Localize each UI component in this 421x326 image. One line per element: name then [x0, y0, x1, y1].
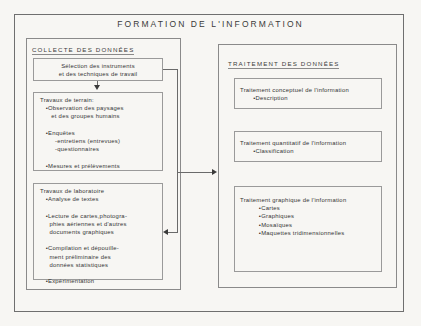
labo-l7: •Compilation et dépouille- — [40, 245, 119, 251]
labo-l0: Travaux de laboratoire — [40, 188, 104, 194]
diagram-canvas: FORMATION DE L'INFORMATION COLLECTE DES … — [0, 0, 421, 326]
terrain-l5: -entretiens (entrevues) — [40, 138, 120, 144]
diagram-title: FORMATION DE L'INFORMATION — [0, 19, 421, 29]
labo-l1: •Analyse de textes — [40, 196, 99, 202]
quantitatif-l1: •Classification — [240, 148, 294, 154]
graphique-l0: Traitement graphique de l'information — [240, 197, 346, 203]
arrow-down-icon — [94, 85, 100, 90]
connector-collecte-to-traitement-line — [178, 172, 213, 173]
box-traitement-conceptuel-text: Traitement conceptuel de l'information •… — [240, 86, 349, 102]
box-travaux-de-laboratoire-text: Travaux de laboratoire •Analyse de texte… — [40, 187, 127, 285]
quantitatif-l0: Traitement quantitatif de l'information — [240, 140, 346, 146]
labo-l11: •Expérimentation — [40, 278, 94, 284]
conceptuel-l1: •Description — [240, 95, 288, 101]
box-travaux-de-terrain-text: Travaux de terrain: •Observation des pay… — [40, 96, 124, 170]
graphique-l4: •Maquettes tridimensionnelles — [240, 230, 344, 236]
graphique-l3: •Mosaïques — [240, 222, 292, 228]
panel-collecte-heading: COLLECTE DES DONNÉES — [32, 46, 134, 55]
box-traitement-quantitatif-text: Traitement quantitatif de l'information … — [240, 139, 346, 155]
terrain-l0: Travaux de terrain: — [40, 97, 94, 103]
graphique-l2: •Graphiques — [240, 213, 294, 219]
panel-traitement-heading: TRAITEMENT DES DONNÉES — [228, 60, 339, 69]
box-selection-instruments-text-2: et des techniques de travail — [33, 70, 163, 78]
box-traitement-graphique-text: Traitement graphique de l'information •C… — [240, 196, 346, 237]
terrain-l1: •Observation des paysages — [40, 105, 124, 111]
conceptuel-l0: Traitement conceptuel de l'information — [240, 87, 349, 93]
connector-into-laboratoire — [168, 232, 178, 233]
connector-selection-vertical — [177, 69, 178, 232]
labo-l4: phies aériennes et d'autres — [40, 221, 127, 227]
labo-l5: documents graphiques — [40, 229, 114, 235]
graphique-l1: •Cartes — [240, 205, 280, 211]
connector-selection-right-stub — [163, 69, 178, 70]
terrain-l6: -questionnaires — [40, 146, 99, 152]
box-selection-instruments-text: Sélection des instruments — [33, 62, 163, 70]
labo-l9: données statistiques — [40, 262, 108, 268]
arrow-right-icon — [212, 169, 217, 175]
arrow-left-icon — [163, 229, 168, 235]
terrain-l2: et des groupes humains — [40, 113, 120, 119]
labo-l8: ment préliminaire des — [40, 254, 111, 260]
terrain-l4: •Enquêtes — [40, 130, 75, 136]
labo-l3: •Lecture de cartes,photogra- — [40, 213, 127, 219]
terrain-l8: •Mesures et prélèvements — [40, 163, 120, 169]
